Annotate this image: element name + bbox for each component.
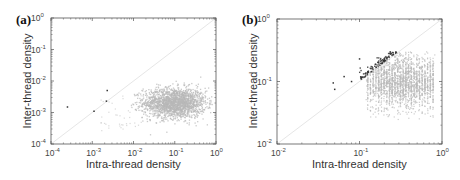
gray-points [101,76,213,135]
x-tick-label: 10-3 [86,147,101,158]
panel-b: (b) Inter-thread density Intra-thread de… [226,0,456,180]
y-tick-label: 10-1 [257,76,272,87]
panel-a: (a) Inter-thread density Intra-thread de… [0,0,230,180]
y-tick-label: 10-2 [31,75,46,86]
scatter-plot-a: 10-410-310-210-110010-410-310-210-1100 [0,0,230,180]
x-tick-label: 10-1 [354,147,369,158]
x-tick-label: 10-1 [169,147,184,158]
x-tick-label: 10-2 [271,147,286,158]
x-tick-label: 10-4 [45,147,60,158]
x-tick-label: 100 [436,147,449,158]
y-tick-label: 100 [31,12,44,23]
x-tick-label: 100 [210,147,223,158]
scatter-plot-b: 10-210-110010-210-1100 [226,0,456,180]
y-tick-label: 10-3 [31,107,46,118]
x-tick-label: 10-2 [128,147,143,158]
y-tick-label: 10-1 [31,44,46,55]
diagonal-reference-line [51,18,216,144]
y-tick-label: 100 [257,13,270,24]
dark-points [67,90,108,112]
gray-points [366,51,436,120]
